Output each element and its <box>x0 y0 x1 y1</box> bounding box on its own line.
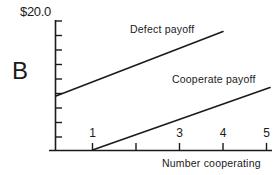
defect-payoff-line <box>56 32 223 97</box>
cooperate-payoff-line <box>93 88 271 151</box>
x-axis-title: Number cooperating <box>162 158 261 169</box>
x-tick-label-4: 4 <box>220 127 227 139</box>
y-axis-ticks <box>56 21 63 137</box>
cooperate-payoff-annotation: Cooperate payoff <box>172 74 256 85</box>
x-tick-label-3: 3 <box>176 127 183 139</box>
x-tick-label-1: 1 <box>89 127 96 139</box>
x-axis-ticks <box>93 143 267 151</box>
y-axis-title: B <box>12 59 28 83</box>
payoff-chart-figure: $20.0 B Defect payoff Cooperate payoff 1… <box>0 0 278 175</box>
y-axis-max-label: $20.0 <box>20 5 51 18</box>
defect-payoff-annotation: Defect payoff <box>130 24 194 35</box>
x-tick-label-5: 5 <box>263 127 270 139</box>
